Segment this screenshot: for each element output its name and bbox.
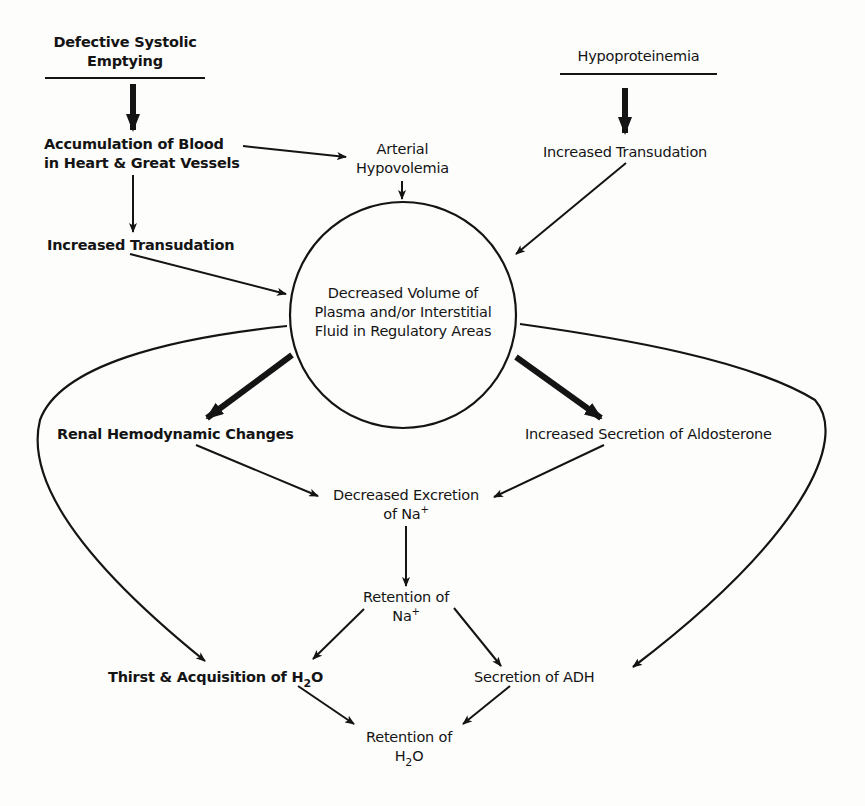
node-aldosterone: Increased Secretion of Aldosterone xyxy=(525,425,772,444)
diagram-page: Defective Systolic Emptying Hypoproteine… xyxy=(0,0,865,806)
curve-circle-to-thirst xyxy=(38,326,287,661)
arrow-left-transudation-to-circle xyxy=(130,254,286,294)
node-hypoproteinemia: Hypoproteinemia xyxy=(560,47,717,66)
node-renal-hemodynamic: Renal Hemodynamic Changes xyxy=(57,425,294,444)
node-line: Secretion of ADH xyxy=(474,668,594,687)
text: Thirst & Acquisition of H xyxy=(108,669,303,685)
node-line: Arterial xyxy=(350,140,455,159)
node-line: Increased Transudation xyxy=(540,143,710,162)
superscript: + xyxy=(421,504,429,515)
superscript: + xyxy=(412,606,420,617)
arrow-thirst-to-retention-h2o xyxy=(298,686,354,724)
node-line: in Heart & Great Vessels xyxy=(44,154,240,173)
arrow-accumulation-to-hypovolemia xyxy=(243,146,346,157)
node-line: Thirst & Acquisition of H2O xyxy=(108,668,323,688)
node-line: of Na+ xyxy=(320,505,492,525)
node-accumulation: Accumulation of Blood in Heart & Great V… xyxy=(44,135,240,173)
node-line: Plasma and/or Interstitial xyxy=(303,303,503,322)
subscript: 2 xyxy=(303,677,310,690)
node-line: Decreased Excretion xyxy=(320,486,492,505)
node-line: Increased Transudation xyxy=(47,236,234,255)
node-line: Hypoproteinemia xyxy=(560,47,717,66)
arrow-adh-to-retention-h2o xyxy=(463,686,510,724)
node-arterial-hypovolemia: Arterial Hypovolemia xyxy=(350,140,455,178)
text: O xyxy=(412,748,423,764)
node-thirst: Thirst & Acquisition of H2O xyxy=(108,668,323,688)
node-line: H2O xyxy=(355,747,463,767)
text: Na xyxy=(392,608,411,624)
node-line: Decreased Volume of xyxy=(303,284,503,303)
node-line: Retention of xyxy=(355,728,463,747)
node-line: Emptying xyxy=(45,52,205,71)
node-increased-transudation-right: Increased Transudation xyxy=(540,143,710,162)
node-increased-transudation-left: Increased Transudation xyxy=(47,236,234,255)
arrow-right-transudation-to-circle xyxy=(516,163,626,254)
node-line: Accumulation of Blood xyxy=(44,135,240,154)
curve-circle-to-adh xyxy=(520,324,826,667)
node-line: Defective Systolic xyxy=(45,33,205,52)
node-retention-na: Retention of Na+ xyxy=(350,588,462,627)
arrow-aldosterone-to-excretion xyxy=(494,445,604,497)
text: O xyxy=(311,669,323,685)
arrow-renal-to-excretion xyxy=(196,445,318,496)
node-line: Retention of xyxy=(350,588,462,607)
node-line: Hypovolemia xyxy=(350,159,455,178)
text: of Na xyxy=(383,506,420,522)
node-retention-h2o: Retention of H2O xyxy=(355,728,463,767)
arrow-circle-to-aldosterone xyxy=(516,357,601,418)
node-adh: Secretion of ADH xyxy=(474,668,594,687)
node-line: Na+ xyxy=(350,607,462,627)
subscript: 2 xyxy=(405,756,412,769)
node-decreased-volume: Decreased Volume of Plasma and/or Inters… xyxy=(303,284,503,341)
node-line: Fluid in Regulatory Areas xyxy=(303,322,503,341)
arrow-circle-to-renal xyxy=(207,355,292,418)
node-line: Increased Secretion of Aldosterone xyxy=(525,425,772,444)
node-defective-systolic: Defective Systolic Emptying xyxy=(45,33,205,71)
node-line: Renal Hemodynamic Changes xyxy=(57,425,294,444)
text: H xyxy=(395,748,406,764)
node-decreased-excretion: Decreased Excretion of Na+ xyxy=(320,486,492,525)
